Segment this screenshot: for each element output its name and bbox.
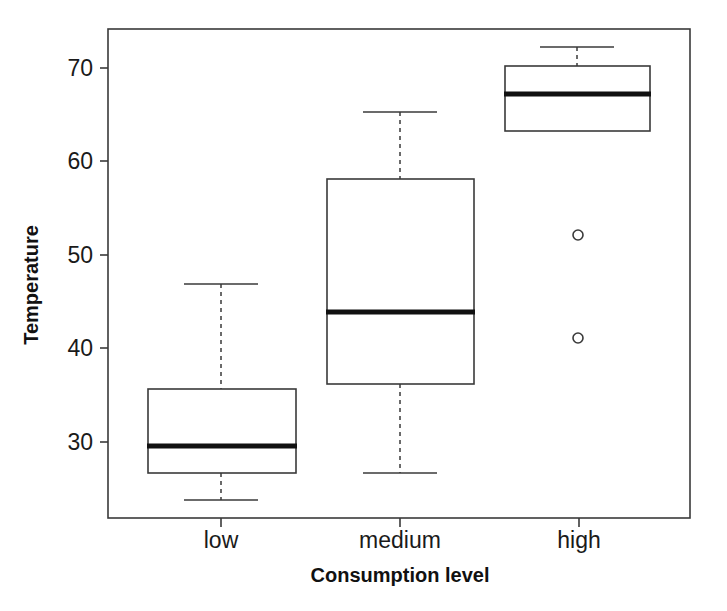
y-axis-ticks [100, 68, 108, 442]
box-group-medium [326, 112, 475, 473]
y-axis-title: Temperature [20, 225, 42, 345]
box-rect-high [505, 66, 650, 131]
box-group-high [504, 47, 651, 343]
x-tick-label-high: high [557, 527, 600, 553]
y-tick-label-70: 70 [67, 55, 93, 81]
boxplot-canvas: 70 60 50 40 30 low medium high [0, 0, 727, 611]
x-axis-title: Consumption level [311, 564, 490, 586]
x-axis-ticks [221, 518, 579, 527]
y-tick-label-60: 60 [67, 148, 93, 174]
outlier-point-high-52 [573, 230, 583, 240]
x-axis-tick-labels: low medium high [204, 527, 601, 553]
box-rect-low [148, 389, 296, 473]
box-rect-medium [327, 179, 474, 384]
y-axis-tick-labels: 70 60 50 40 30 [67, 55, 93, 455]
x-tick-label-low: low [204, 527, 239, 553]
y-tick-label-50: 50 [67, 242, 93, 268]
boxplot-figure: 70 60 50 40 30 low medium high [0, 0, 727, 611]
x-tick-label-medium: medium [359, 527, 441, 553]
outlier-point-high-41 [573, 333, 583, 343]
y-tick-label-30: 30 [67, 429, 93, 455]
y-tick-label-40: 40 [67, 335, 93, 361]
box-group-low [147, 284, 297, 500]
